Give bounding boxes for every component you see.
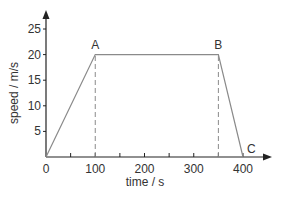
y-tick-label: 15 bbox=[28, 73, 42, 87]
y-axis-label: speed / m/s bbox=[7, 62, 21, 124]
y-tick-label: 5 bbox=[34, 124, 41, 138]
x-tick-label: 400 bbox=[233, 162, 253, 176]
x-tick-label: 200 bbox=[134, 162, 154, 176]
x-axis-label: time / s bbox=[126, 175, 165, 189]
y-tick-label: 20 bbox=[28, 48, 42, 62]
y-tick-label: 25 bbox=[28, 22, 42, 36]
x-tick-label: 0 bbox=[43, 162, 50, 176]
speed-time-chart: 0100200300400 510152025 ABC time / s spe… bbox=[0, 0, 284, 200]
axes bbox=[43, 10, 273, 161]
y-tick-label: 10 bbox=[28, 99, 42, 113]
point-label-b: B bbox=[214, 38, 222, 52]
y-axis-arrow-icon bbox=[43, 10, 50, 19]
dashed-guides bbox=[95, 55, 218, 157]
point-labels: ABC bbox=[91, 38, 256, 156]
point-label-a: A bbox=[91, 38, 99, 52]
point-label-c: C bbox=[247, 142, 256, 156]
x-tick-label: 300 bbox=[184, 162, 204, 176]
speed-line bbox=[46, 55, 243, 157]
x-tick-label: 100 bbox=[85, 162, 105, 176]
y-ticks: 510152025 bbox=[28, 22, 46, 138]
x-axis-arrow-icon bbox=[263, 154, 272, 161]
